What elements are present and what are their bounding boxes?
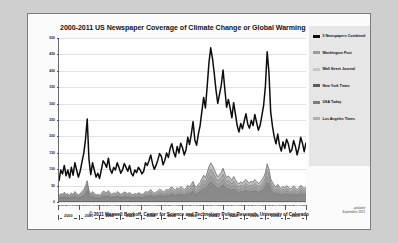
legend-item-label: Washington Post bbox=[323, 51, 352, 55]
year-rule-right bbox=[95, 218, 97, 219]
legend-item[interactable]: Los Angeles Times bbox=[313, 117, 355, 121]
legend-item[interactable]: Wall Street Journal bbox=[313, 67, 355, 71]
legend: 5 Newspapers CombinedWashington PostWall… bbox=[309, 26, 370, 166]
year-rule-right bbox=[157, 218, 159, 219]
legend-item[interactable]: USA Today bbox=[313, 100, 341, 104]
y-axis-tick-mark bbox=[57, 202, 59, 203]
y-axis-tick-label: 100 bbox=[49, 167, 55, 171]
y-axis-tick-mark bbox=[57, 153, 59, 154]
year-rule-left bbox=[184, 218, 186, 219]
legend-swatch-icon bbox=[313, 51, 320, 54]
year-rule-left bbox=[163, 218, 165, 219]
year-rule-left bbox=[246, 218, 248, 219]
legend-swatch-icon bbox=[313, 101, 320, 104]
year-rule-right bbox=[198, 218, 200, 219]
y-axis-tick-label: 500 bbox=[49, 36, 55, 40]
year-rule-right bbox=[240, 218, 242, 219]
plot-area-wrapper: Number of Articles 050100150200250300350… bbox=[58, 38, 306, 202]
year-rule-left bbox=[60, 218, 62, 219]
plot-area bbox=[58, 38, 306, 202]
y-axis-tick-mark bbox=[57, 186, 59, 187]
y-axis-tick-mark bbox=[57, 169, 59, 170]
year-rule-left bbox=[122, 218, 124, 219]
year-rule-right bbox=[219, 218, 221, 219]
y-axis-tick-mark bbox=[57, 71, 59, 72]
y-axis-tick-label: 50 bbox=[51, 184, 55, 188]
legend-item[interactable]: 5 Newspapers Combined bbox=[313, 34, 365, 38]
legend-item[interactable]: Washington Post bbox=[313, 51, 352, 55]
series-line bbox=[59, 48, 306, 181]
legend-item-label: 5 Newspapers Combined bbox=[323, 34, 366, 38]
year-rule-left bbox=[225, 218, 227, 219]
legend-item[interactable]: New York Times bbox=[313, 84, 350, 88]
y-axis-tick-mark bbox=[57, 38, 59, 39]
series-layer bbox=[59, 38, 306, 201]
legend-item-label: Los Angeles Times bbox=[323, 117, 356, 121]
legend-swatch-icon bbox=[313, 35, 320, 38]
y-axis-tick-mark bbox=[57, 136, 59, 137]
year-rule-right bbox=[178, 218, 180, 219]
x-axis-month-ticks: JFMAMJJASONDJFMAMJJASONDJFMAMJJASONDJFMA… bbox=[58, 204, 306, 211]
y-axis-tick-label: 0 bbox=[53, 200, 55, 204]
y-axis-tick-mark bbox=[57, 87, 59, 88]
y-axis-tick-label: 250 bbox=[49, 118, 55, 122]
gridline bbox=[59, 202, 306, 203]
y-axis-tick-mark bbox=[57, 104, 59, 105]
legend-swatch-icon bbox=[313, 84, 320, 87]
y-axis-tick-label: 350 bbox=[49, 85, 55, 89]
year-rule-right bbox=[74, 218, 76, 219]
year-rule-left bbox=[205, 218, 207, 219]
updated-note: updated September 2011 bbox=[342, 206, 365, 214]
year-rule-right bbox=[116, 218, 118, 219]
y-axis-tick-label: 450 bbox=[49, 52, 55, 56]
y-axis-tick-mark bbox=[57, 54, 59, 55]
year-rule-left bbox=[81, 218, 83, 219]
legend-item-label: New York Times bbox=[323, 84, 350, 88]
credit-line: © 2011 Maxwell Boykoff, Center for Scien… bbox=[28, 212, 370, 217]
legend-swatch-icon bbox=[313, 68, 320, 71]
updated-date: September 2011 bbox=[342, 210, 365, 214]
year-rule-left bbox=[101, 218, 103, 219]
month-group-separator bbox=[306, 205, 307, 210]
figure-panel: 2000-2011 US Newspaper Coverage of Clima… bbox=[27, 13, 371, 230]
y-axis-tick-mark bbox=[57, 120, 59, 121]
year-rule-left bbox=[287, 218, 289, 219]
year-rule-right bbox=[302, 218, 304, 219]
y-axis-tick-label: 300 bbox=[49, 102, 55, 106]
y-axis-tick-label: 150 bbox=[49, 151, 55, 155]
year-rule-right bbox=[260, 218, 262, 219]
legend-item-label: USA Today bbox=[323, 100, 342, 104]
legend-swatch-icon bbox=[313, 117, 320, 120]
year-rule-left bbox=[267, 218, 269, 219]
year-rule-left bbox=[143, 218, 145, 219]
legend-item-label: Wall Street Journal bbox=[323, 67, 355, 71]
chart-title: 2000-2011 US Newspaper Coverage of Clima… bbox=[60, 24, 306, 32]
y-axis-tick-label: 200 bbox=[49, 134, 55, 138]
y-axis-tick-label: 400 bbox=[49, 69, 55, 73]
year-rule-right bbox=[136, 218, 138, 219]
year-rule-right bbox=[281, 218, 283, 219]
